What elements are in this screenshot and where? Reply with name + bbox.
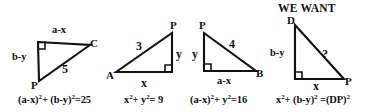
triangle-1-hypotenuse-label: 5	[62, 63, 68, 75]
equation-4: x2+ (b-y)2 =(DP)2	[276, 95, 350, 106]
triangle-3-hypotenuse-label: 4	[229, 38, 235, 50]
we-want-note: WE WANT	[278, 3, 336, 15]
equation-3: (a-x)2+ y2=16	[190, 95, 247, 106]
triangle-3-side-left-label: y	[192, 48, 198, 60]
geometry-figure-canvas: a-x b-y 5 C P P A 3 y x P B 4 y a-x WE W…	[0, 0, 371, 112]
triangle-3-vertex-B-label: B	[256, 68, 263, 79]
equation-4-plus: +	[285, 94, 293, 105]
triangle-4-vertex-P-label: P	[345, 76, 352, 87]
triangle-4-shape	[295, 25, 344, 79]
triangle-2-hypotenuse-label: 3	[136, 40, 142, 52]
equation-4-term-2: (b-y)	[293, 94, 314, 105]
triangle-1-vertex-P-label: P	[31, 80, 38, 91]
triangle-3-side-bottom-label: a-x	[217, 76, 231, 87]
triangle-2-vertex-A-label: A	[106, 70, 114, 81]
triangle-2-side-bottom-label: x	[141, 77, 147, 89]
equation-3-tail: =16	[231, 94, 247, 105]
triangle-4-side-left-label: b-y	[270, 48, 285, 59]
equation-4-tail: =(DP)	[317, 94, 346, 105]
equation-1-term-2: (b-y)	[50, 94, 71, 105]
equation-1: (a-x)2+ (b-y)2=25	[18, 95, 91, 106]
triangle-4-side-bottom-label: x	[313, 80, 319, 92]
equation-1-tail: =25	[75, 94, 91, 105]
triangle-2-vertex-P-label: P	[170, 20, 177, 31]
equation-4-exp-3: 2	[346, 93, 349, 101]
triangle-2-shape	[116, 33, 172, 72]
triangle-4-vertex-D-label: D	[287, 15, 295, 26]
triangle-1-vertex-C-label: C	[90, 38, 98, 49]
equation-2: x2+ y2= 9	[124, 95, 163, 106]
equation-2-tail: = 9	[150, 94, 164, 105]
triangle-4-hypotenuse-label: ?	[322, 48, 328, 60]
equation-3-term-1: (a-x)	[190, 94, 211, 105]
triangle-2-side-right-label: y	[176, 48, 182, 60]
triangle-3-vertex-P-label: P	[199, 20, 206, 31]
equation-1-term-1: (a-x)	[18, 94, 39, 105]
triangle-1-side-left-label: b-y	[12, 52, 27, 63]
triangle-1-side-top-label: a-x	[52, 25, 66, 36]
equation-2-plus: +	[133, 94, 141, 105]
